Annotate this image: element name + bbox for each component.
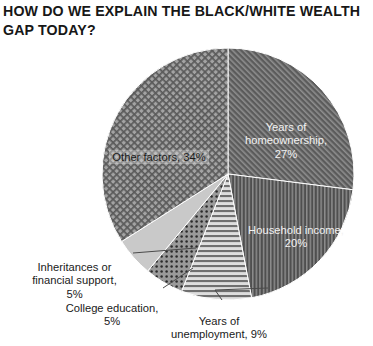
slice-label-years-of-homeownership: Years of homeownership, 27% xyxy=(231,107,341,161)
slice-label-years-of-unemployment: Years of unemployment, 9% xyxy=(151,301,287,342)
pie-chart: Years of homeownership, 27% Household in… xyxy=(0,0,373,346)
slice-label-household-income: Household income, 20% xyxy=(236,210,356,251)
slice-label-other-factors: Other factors, 34% xyxy=(100,137,218,164)
